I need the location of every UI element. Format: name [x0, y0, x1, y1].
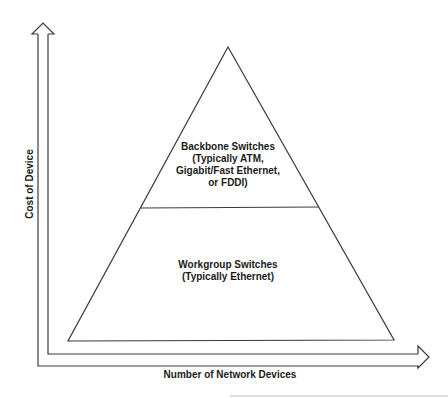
workgroup-switches-label: Workgroup Switches (Typically Ethernet) — [128, 259, 328, 283]
pyramid-diagram: Backbone Switches (Typically ATM, Gigabi… — [0, 0, 448, 398]
backbone-detail-line-3: or FDDI) — [128, 177, 328, 189]
y-axis-arrow-outer — [38, 34, 418, 368]
x-axis-arrowhead — [418, 346, 429, 368]
backbone-detail-line-2: Gigabit/Fast Ethernet, — [128, 165, 328, 177]
tier-divider — [141, 207, 319, 208]
y-axis-arrow-inner — [48, 34, 418, 354]
workgroup-detail: (Typically Ethernet) — [128, 271, 328, 283]
backbone-switches-label: Backbone Switches (Typically ATM, Gigabi… — [128, 141, 328, 189]
axes-arrow — [32, 23, 429, 368]
y-axis-label: Cost of Device — [24, 144, 36, 224]
backbone-title: Backbone Switches — [128, 141, 328, 153]
backbone-detail-line-1: (Typically ATM, — [128, 153, 328, 165]
workgroup-title: Workgroup Switches — [128, 259, 328, 271]
pyramid — [68, 47, 394, 341]
pyramid-outline — [68, 47, 394, 341]
y-axis-arrowhead — [32, 23, 54, 34]
x-axis-label: Number of Network Devices — [130, 369, 330, 381]
diagram-graphics — [0, 0, 448, 398]
